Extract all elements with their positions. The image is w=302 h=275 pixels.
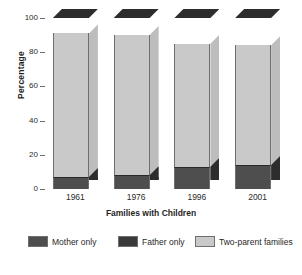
legend-swatch [118, 236, 138, 247]
bar-segment-side [210, 35, 219, 180]
legend-item[interactable]: Father only [118, 236, 185, 247]
plot-area [45, 18, 288, 189]
y-axis-tick-label: 0 [0, 184, 38, 193]
y-axis-tick-label: 40 [0, 116, 38, 125]
x-axis-tick-label: 1996 [167, 192, 228, 202]
bar-top-face [114, 9, 159, 18]
bar-segment[interactable] [53, 177, 89, 189]
bar-group[interactable] [174, 18, 210, 189]
legend-label: Father only [142, 237, 185, 247]
bar-top-face [53, 9, 98, 18]
bar-segment[interactable] [114, 175, 150, 189]
x-axis-tick-label: 1961 [45, 192, 106, 202]
y-axis-tick-label: 60 [0, 81, 38, 90]
legend-item[interactable]: Mother only [28, 236, 96, 247]
x-axis-tick-label: 1976 [106, 192, 167, 202]
bar-group[interactable] [235, 18, 271, 189]
legend-item[interactable]: Two-parent families [195, 236, 293, 247]
legend-swatch [28, 236, 48, 247]
bar-top-face [174, 9, 219, 18]
y-axis-tick-label: 80 [0, 47, 38, 56]
x-axis-title: Families with Children [0, 208, 302, 218]
bar-segment-side [89, 24, 98, 180]
y-axis-title: Percentage [16, 30, 26, 120]
bar-segment[interactable] [114, 35, 150, 189]
legend-swatch [195, 236, 215, 247]
bar-segment-side [150, 26, 159, 180]
bar-top-face [235, 9, 280, 18]
bar-segment[interactable] [235, 165, 271, 189]
y-axis-tick [40, 189, 45, 190]
x-axis-tick-label: 2001 [227, 192, 288, 202]
chart-legend: Mother onlyFather onlyTwo-parent familie… [0, 236, 302, 256]
y-axis-tick-label: 100 [0, 13, 38, 22]
bar-segment[interactable] [53, 33, 89, 189]
y-axis-tick-label: 20 [0, 150, 38, 159]
legend-label: Mother only [52, 237, 96, 247]
legend-label: Two-parent families [219, 237, 293, 247]
bar-segment[interactable] [174, 167, 210, 189]
bar-group[interactable] [53, 18, 89, 189]
stacked-bar-chart: Percentage 020406080100 1961197619962001… [0, 0, 302, 275]
bar-group[interactable] [114, 18, 150, 189]
